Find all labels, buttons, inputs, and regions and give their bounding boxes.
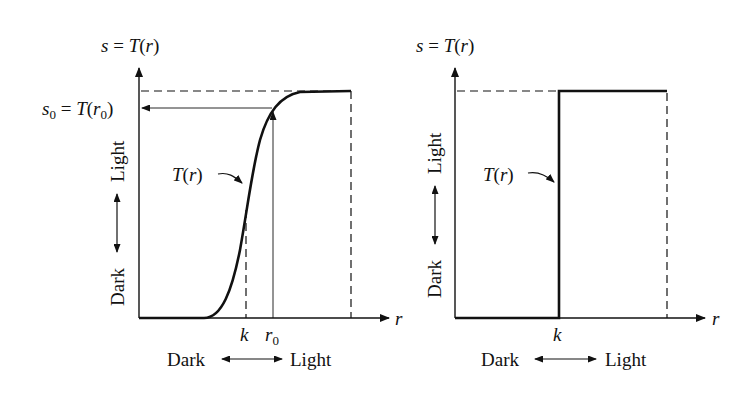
- left-transform-curve: [139, 91, 351, 318]
- left-plot: s = T(r) r s0 = T(r0) T(r) k r0 Dark: [42, 35, 403, 370]
- right-curve-label: T(r): [483, 164, 514, 186]
- left-curve-label: T(r): [172, 164, 203, 186]
- right-k-tick-label: k: [553, 324, 562, 345]
- left-curve-label-pointer: [218, 173, 242, 183]
- right-y-light-label: Light: [424, 132, 445, 174]
- right-x-dark-label: Dark: [481, 349, 519, 370]
- left-x-light-label: Light: [290, 349, 332, 370]
- right-curve-label-pointer: [528, 172, 554, 182]
- left-y-dark-label: Dark: [107, 268, 128, 306]
- left-x-axis-title: r: [395, 308, 403, 329]
- right-y-axis-title: s = T(r): [416, 35, 474, 57]
- left-y-light-label: Light: [107, 140, 128, 182]
- left-k-tick-label: k: [240, 324, 249, 345]
- right-x-light-label: Light: [605, 349, 647, 370]
- right-plot: s = T(r) r T(r) k Dark Light Dark Light: [416, 35, 720, 370]
- right-y-dark-label: Dark: [424, 260, 445, 298]
- left-r0-tick-label: r0: [265, 324, 279, 348]
- figure: s = T(r) r s0 = T(r0) T(r) k r0 Dark: [0, 0, 755, 396]
- s0-label: s0 = T(r0): [42, 98, 113, 122]
- right-threshold-step: [455, 91, 667, 318]
- left-x-dark-label: Dark: [167, 349, 205, 370]
- right-x-axis-title: r: [712, 308, 720, 329]
- left-y-axis-title: s = T(r): [101, 35, 159, 57]
